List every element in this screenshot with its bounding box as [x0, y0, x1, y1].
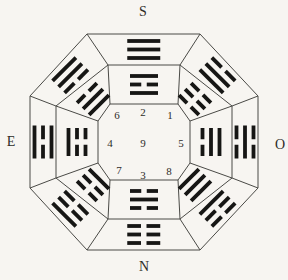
trigram-line-solid — [130, 74, 158, 78]
outer-trigram-right-kan-icon — [235, 126, 256, 159]
trigram-line-solid — [33, 126, 37, 159]
outer-trigram-top-right-xun-icon — [198, 56, 236, 94]
trigram-line-broken — [147, 83, 158, 87]
trigram-line-broken — [190, 82, 201, 93]
loshu-number-1: 1 — [167, 109, 173, 121]
trigram-line-broken — [218, 196, 230, 208]
trigram-line-broken — [201, 145, 205, 156]
outer-trigram-top-qian-icon — [127, 39, 160, 60]
trigram-line-broken — [88, 82, 99, 93]
loshu-number-8: 8 — [166, 165, 172, 177]
trigram-line-broken — [235, 126, 239, 140]
trigram-line-solid — [209, 128, 213, 156]
trigram-line-broken — [57, 196, 69, 208]
trigram-line-broken — [204, 209, 216, 221]
trigram-line-solid — [127, 56, 160, 60]
trigram-line-broken — [84, 145, 88, 156]
loshu-number-6: 6 — [114, 109, 120, 121]
inner-trigram-right-dui-icon — [201, 128, 222, 156]
trigram-line-solid — [184, 174, 206, 196]
loshu-number-3: 3 — [140, 169, 146, 181]
trigram-line-broken — [127, 233, 141, 237]
trigram-line-broken — [130, 189, 141, 193]
trigram-line-broken — [210, 215, 222, 227]
octagon-geometry: 621495738 — [30, 34, 258, 250]
trigram-line-broken — [88, 192, 99, 203]
trigram-line-broken — [190, 106, 201, 117]
trigram-line-solid — [127, 39, 160, 43]
trigram-line-solid — [127, 48, 160, 52]
loshu-number-2: 2 — [140, 106, 146, 118]
outer-trigram-bottom-left-zhen-icon — [51, 190, 89, 228]
trigram-line-broken — [41, 126, 45, 140]
trigram-line-solid — [88, 168, 110, 190]
trigram-line-broken — [178, 94, 189, 105]
trigram-line-broken — [76, 94, 87, 105]
compass-label-west: O — [275, 137, 285, 152]
trigram-line-solid — [243, 126, 247, 159]
trigram-line-broken — [94, 186, 105, 197]
loshu-number-5: 5 — [178, 137, 184, 149]
trigram-line-broken — [147, 206, 158, 210]
trigram-line-solid — [190, 180, 212, 202]
trigram-line-broken — [210, 56, 222, 68]
outer-trigram-top-left-dui-icon — [51, 56, 89, 94]
trigram-line-solid — [130, 91, 158, 95]
trigram-line-solid — [82, 88, 104, 110]
trigram-line-broken — [252, 145, 256, 159]
trigram-line-solid — [218, 128, 222, 156]
trigram-line-broken — [76, 180, 87, 191]
trigram-line-broken — [147, 224, 161, 228]
bagua-octagon-diagram: S N E O 621495738 — [0, 0, 288, 280]
inner-trigram-bottom-kan-icon — [130, 189, 158, 210]
trigram-line-broken — [252, 126, 256, 140]
trigram-line-broken — [75, 128, 79, 139]
trigram-line-broken — [201, 128, 205, 139]
outer-trigram-left-li-icon — [33, 126, 54, 159]
trigram-line-broken — [147, 189, 158, 193]
loshu-number-9: 9 — [140, 137, 146, 149]
compass-label-north: N — [139, 259, 149, 274]
trigram-line-solid — [130, 198, 158, 202]
trigram-line-broken — [202, 94, 213, 105]
trigram-line-broken — [71, 209, 83, 221]
outer-trigram-bottom-kun-icon — [127, 224, 160, 245]
inner-trigram-left-zhen-icon — [67, 128, 88, 156]
trigram-line-broken — [130, 83, 141, 87]
trigram-line-solid — [67, 128, 71, 156]
loshu-number-4: 4 — [107, 137, 113, 149]
trigram-line-solid — [88, 94, 110, 116]
inner-trigram-top-li-icon — [130, 74, 158, 95]
loshu-number-7: 7 — [116, 164, 122, 176]
bagua-figure: S N E O 621495738 — [0, 0, 288, 280]
trigram-line-broken — [127, 241, 141, 245]
trigram-line-broken — [75, 145, 79, 156]
outer-trigram-bottom-right-gen-icon — [198, 190, 236, 228]
trigram-line-broken — [235, 145, 239, 159]
trigram-line-broken — [84, 128, 88, 139]
trigram-line-solid — [178, 168, 200, 190]
trigram-line-broken — [41, 145, 45, 159]
trigram-line-broken — [77, 203, 89, 215]
trigram-line-broken — [196, 100, 207, 111]
compass-label-east: E — [7, 134, 16, 149]
trigram-line-broken — [82, 174, 93, 185]
trigram-line-solid — [57, 62, 83, 88]
trigram-line-solid — [50, 126, 54, 159]
trigram-line-broken — [130, 206, 141, 210]
trigram-line-broken — [127, 224, 141, 228]
compass-label-south: S — [139, 4, 147, 19]
trigram-line-broken — [147, 233, 161, 237]
trigram-line-broken — [77, 68, 89, 80]
trigram-line-broken — [184, 88, 195, 99]
trigram-line-solid — [204, 62, 230, 88]
trigram-line-broken — [147, 241, 161, 245]
